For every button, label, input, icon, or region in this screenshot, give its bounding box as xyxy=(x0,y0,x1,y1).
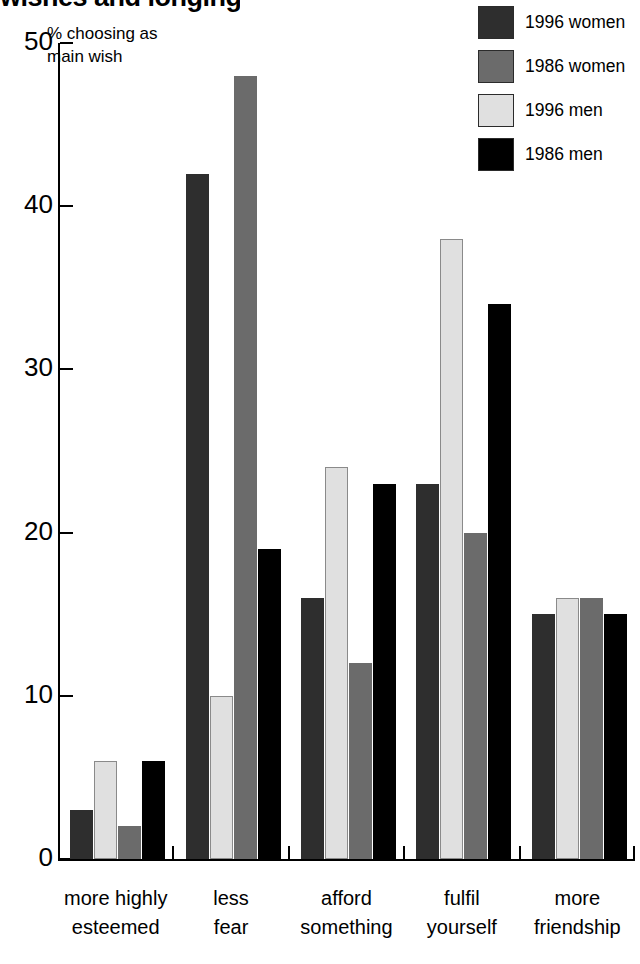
bar xyxy=(94,761,117,859)
x-tick xyxy=(519,846,521,859)
y-tick: 30 xyxy=(60,368,73,370)
legend-item[interactable]: 1996 women xyxy=(478,0,640,44)
bar xyxy=(532,614,555,859)
x-axis-line xyxy=(58,859,635,861)
y-tick-label: 40 xyxy=(24,189,53,219)
bar xyxy=(325,467,348,859)
x-category-label: less fear xyxy=(173,884,288,942)
bar xyxy=(580,598,603,859)
y-tick-label: 20 xyxy=(24,516,53,546)
y-tick: 50 xyxy=(60,42,73,44)
bar xyxy=(258,549,281,859)
plot-area: 01020304050 xyxy=(58,43,635,861)
chart-title-text: wishes and longings xyxy=(0,0,240,12)
y-tick-label: 30 xyxy=(24,352,53,382)
legend-item-label: 1996 women xyxy=(525,12,625,33)
bar xyxy=(301,598,324,859)
bar xyxy=(556,598,579,859)
bar xyxy=(464,533,487,859)
x-tick xyxy=(403,846,405,859)
bar xyxy=(604,614,627,859)
bar xyxy=(186,174,209,859)
bar xyxy=(142,761,165,859)
x-category-label: fulfil yourself xyxy=(404,884,519,942)
x-axis-category-labels: more highly esteemedless fearafford some… xyxy=(58,884,635,956)
bar-chart: wishes and longings % choosing as main w… xyxy=(0,0,640,964)
chart-title-clipped: wishes and longings xyxy=(0,0,240,16)
bar xyxy=(488,304,511,859)
bar xyxy=(234,76,257,859)
y-tick: 40 xyxy=(60,205,73,207)
x-category-label: more highly esteemed xyxy=(58,884,173,942)
y-tick: 20 xyxy=(60,532,73,534)
y-tick-label: 0 xyxy=(39,842,53,872)
y-tick-label: 50 xyxy=(24,26,53,56)
x-tick xyxy=(288,846,290,859)
x-category-label: more friendship xyxy=(520,884,635,942)
bar xyxy=(373,484,396,859)
bar xyxy=(440,239,463,859)
bar xyxy=(210,696,233,859)
x-tick xyxy=(172,846,174,859)
legend-swatch-icon xyxy=(478,6,514,39)
y-axis-line xyxy=(58,43,60,861)
x-tick xyxy=(633,846,635,859)
y-tick: 10 xyxy=(60,695,73,697)
bar xyxy=(118,826,141,859)
bar xyxy=(416,484,439,859)
bar xyxy=(70,810,93,859)
x-category-label: afford something xyxy=(289,884,404,942)
x-tick xyxy=(58,846,60,859)
y-tick-label: 10 xyxy=(24,679,53,709)
bar xyxy=(349,663,372,859)
